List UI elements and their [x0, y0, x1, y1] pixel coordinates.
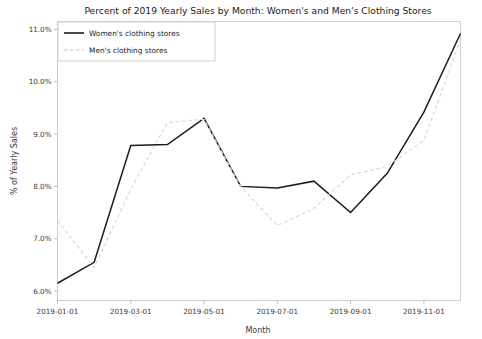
y-axis-label: % of Yearly Sales — [10, 127, 19, 195]
legend-item-womens-label: Women's clothing stores — [89, 29, 180, 38]
legend-item-mens-label: Men's clothing stores — [89, 46, 168, 55]
x-tick-label: 2019-11-01 — [403, 307, 445, 316]
x-tick-label: 2019-05-01 — [183, 307, 225, 316]
chart-title: Percent of 2019 Yearly Sales by Month: W… — [84, 5, 431, 16]
line-chart: Percent of 2019 Yearly Sales by Month: W… — [0, 0, 482, 339]
y-tick-label: 8.0% — [33, 182, 51, 191]
y-tick-label: 9.0% — [33, 130, 51, 139]
x-axis-label: Month — [245, 326, 270, 335]
y-tick-label: 7.0% — [33, 234, 51, 243]
y-tick-label: 11.0% — [29, 25, 52, 34]
x-tick-label: 2019-09-01 — [330, 307, 372, 316]
x-tick-label: 2019-01-01 — [37, 307, 79, 316]
chart-legend: Women's clothing stores Men's clothing s… — [58, 22, 215, 61]
legend-background — [58, 22, 215, 61]
y-tick-label: 10.0% — [29, 77, 52, 86]
x-tick-label: 2019-07-01 — [256, 307, 298, 316]
y-tick-label: 6.0% — [33, 287, 51, 296]
x-tick-label: 2019-03-01 — [110, 307, 152, 316]
chart-figure: Percent of 2019 Yearly Sales by Month: W… — [0, 0, 482, 339]
